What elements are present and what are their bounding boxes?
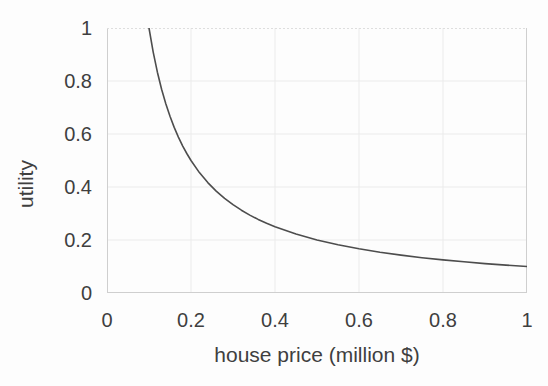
y-tick-label: 0	[28, 281, 92, 305]
utility-curve-plot	[107, 28, 527, 293]
x-tick-label: 0.2	[177, 308, 205, 332]
x-tick-label: 1	[521, 308, 532, 332]
y-tick-label: 0.4	[28, 175, 92, 199]
y-tick-label: 1	[28, 16, 92, 40]
x-tick-label: 0.8	[429, 308, 457, 332]
x-tick-label: 0	[101, 308, 112, 332]
x-tick-label: 0.4	[261, 308, 289, 332]
utility-curve	[149, 28, 527, 267]
y-tick-label: 0.2	[28, 228, 92, 252]
x-tick-label: 0.6	[345, 308, 373, 332]
plot-area	[107, 28, 527, 293]
y-tick-label: 0.6	[28, 122, 92, 146]
x-axis-title: house price (million $)	[107, 343, 527, 367]
y-tick-label: 0.8	[28, 69, 92, 93]
utility-vs-house-price-figure: utility 00.20.40.60.81 00.20.40.60.81 ho…	[0, 0, 548, 386]
